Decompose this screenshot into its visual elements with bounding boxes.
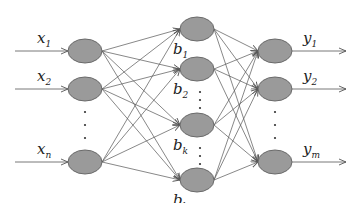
input-node [68, 39, 102, 63]
output-label: y1 [302, 29, 317, 49]
edge [102, 29, 180, 51]
hidden-node [180, 57, 214, 81]
output-label: ym [302, 140, 320, 160]
output-node [258, 150, 292, 174]
ellipsis-dot [199, 163, 201, 165]
output-node [258, 77, 292, 101]
output-label: y2 [302, 67, 317, 87]
neural-network-diagram: x1x2xnb1b2bkbly1y2ym [0, 0, 357, 203]
edge [214, 125, 258, 162]
edge [102, 29, 180, 162]
input-node [68, 150, 102, 174]
ellipsis-dot [84, 124, 86, 126]
edge [214, 69, 258, 89]
edge [102, 51, 180, 69]
edge [102, 89, 180, 125]
ellipsis-dot [199, 155, 201, 157]
hidden-label: bl [173, 191, 186, 203]
edge [102, 125, 180, 162]
input-label: x2 [37, 67, 51, 87]
ellipsis-dot [199, 99, 201, 101]
edge [214, 29, 258, 89]
edge [102, 162, 180, 180]
hidden-label: b1 [173, 40, 188, 60]
edge [102, 29, 180, 89]
edge [214, 162, 258, 180]
input-node [68, 77, 102, 101]
ellipsis-dot [84, 111, 86, 113]
hidden-label: bk [173, 136, 188, 156]
hidden-node [180, 113, 214, 137]
ellipsis-dot [274, 111, 276, 113]
hidden-node [180, 17, 214, 41]
input-label: x1 [37, 29, 51, 49]
ellipsis-dot [274, 137, 276, 139]
edge [214, 51, 258, 69]
edge [214, 29, 258, 162]
edge [214, 51, 258, 125]
edge [102, 69, 180, 89]
ellipsis-dot [274, 124, 276, 126]
ellipsis-dot [199, 91, 201, 93]
ellipsis-dot [199, 147, 201, 149]
edge [102, 51, 180, 125]
input-label: xn [37, 140, 51, 160]
ellipsis-dot [84, 137, 86, 139]
hidden-node [180, 168, 214, 192]
edge [102, 89, 180, 180]
edge [214, 29, 258, 51]
ellipsis-dot [199, 107, 201, 109]
edge [214, 51, 258, 180]
edge [214, 89, 258, 180]
output-node [258, 39, 292, 63]
hidden-label: b2 [173, 80, 189, 100]
edge [102, 69, 180, 162]
